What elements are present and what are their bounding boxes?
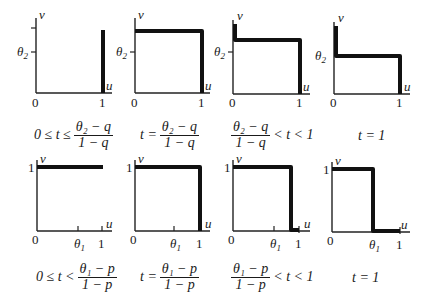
diagram-canvas: v u 0 1 θ2 v u 0 1 θ2 v u 0 1 θ2 v u 0 1	[0, 0, 429, 306]
plot-row1-3: v u 0 1 θ2	[214, 8, 310, 110]
caption-row2-1: 0 ≤ t < θ₁ − p 1 − p	[36, 262, 120, 292]
origin-label: 0	[130, 232, 137, 247]
theta1-label: θ1	[74, 236, 85, 253]
caption-prefix: t = 1	[358, 128, 385, 144]
fraction-numerator: θ₂ − q	[74, 120, 113, 136]
fraction-denominator: 1 − p	[80, 278, 114, 293]
v-label: v	[338, 10, 344, 25]
plot-row1-4: v u 0 1 θ2	[315, 10, 411, 110]
u-label: u	[106, 78, 113, 93]
u-label: u	[205, 216, 212, 231]
caption-row2-3: θ₁ − p 1 − p < t < 1	[228, 262, 314, 292]
caption-prefix: t =	[140, 127, 157, 143]
u-label: u	[303, 79, 310, 94]
fraction: θ₂ − q 1 − q	[160, 120, 199, 150]
origin-label: 0	[131, 95, 138, 110]
origin-label: 0	[32, 95, 39, 110]
fraction: θ₁ − p 1 − p	[160, 262, 199, 292]
one-level-label: 1	[126, 160, 133, 175]
fraction: θ₂ − q 1 − q	[231, 120, 270, 150]
fraction-denominator: 1 − q	[76, 136, 110, 151]
caption-prefix: 0 ≤ t ≤	[34, 127, 71, 143]
one-label: 1	[99, 95, 106, 110]
one-label: 1	[198, 95, 205, 110]
caption-prefix: t =	[140, 269, 157, 285]
v-label: v	[138, 151, 144, 166]
one-level-label: 1	[323, 162, 330, 177]
v-label: v	[237, 8, 243, 23]
one-label: 1	[396, 95, 403, 110]
v-label: v	[138, 7, 144, 22]
theta1-label: θ1	[369, 237, 380, 254]
u-label: u	[106, 216, 113, 231]
plot-row2-4: v u 1 0 θ1 1	[323, 153, 410, 254]
origin-label: 0	[229, 95, 236, 110]
fraction-denominator: 1 − p	[233, 278, 267, 293]
one-label: 1	[396, 237, 403, 252]
origin-label: 0	[32, 232, 39, 247]
path-segment	[233, 167, 299, 230]
path-segment	[332, 169, 400, 231]
one-level-label: 1	[224, 160, 231, 175]
v-label: v	[236, 151, 242, 166]
caption-row2-4: t = 1	[352, 270, 379, 286]
fraction-numerator: θ₁ − p	[160, 262, 199, 278]
one-label: 1	[196, 236, 203, 251]
path-segment	[336, 26, 400, 94]
fraction: θ₁ − p 1 − p	[78, 262, 117, 292]
theta2-label: θ2	[214, 44, 225, 61]
caption-suffix: < t < 1	[273, 269, 313, 285]
plot-row2-2: v u 1 0 θ1 1	[126, 151, 212, 253]
one-label: 1	[295, 236, 302, 251]
caption-row1-1: 0 ≤ t ≤ θ₂ − q 1 − q	[34, 120, 116, 150]
fraction-numerator: θ₂ − q	[231, 120, 270, 136]
caption-row1-2: t = θ₂ − q 1 − q	[140, 120, 202, 150]
one-label: 1	[296, 95, 303, 110]
caption-row1-4: t = 1	[358, 128, 385, 144]
theta2-label: θ2	[116, 44, 127, 61]
one-level-label: 1	[28, 160, 35, 175]
caption-suffix: < t < 1	[273, 127, 313, 143]
fraction-numerator: θ₁ − p	[231, 262, 270, 278]
v-label: v	[40, 151, 46, 166]
theta2-label: θ2	[17, 44, 28, 61]
path-segment	[135, 31, 202, 93]
origin-label: 0	[228, 232, 235, 247]
plot-row2-1: v u 1 0 θ1 1	[28, 151, 113, 253]
plot-row2-3: v u 1 0 θ1 1	[224, 151, 311, 253]
u-label: u	[304, 216, 311, 231]
origin-label: 0	[327, 233, 334, 248]
v-label: v	[335, 153, 341, 168]
plot-row1-2: v u 0 1 θ2	[116, 7, 212, 110]
path-segment	[235, 24, 300, 94]
fraction-denominator: 1 − q	[233, 136, 267, 151]
fraction-denominator: 1 − q	[162, 136, 196, 151]
caption-prefix: t = 1	[352, 270, 379, 286]
fraction-numerator: θ₁ − p	[78, 262, 117, 278]
plot-row1-1: v u 0 1 θ2	[17, 7, 113, 110]
theta1-label: θ1	[270, 236, 281, 253]
caption-row1-3: θ₂ − q 1 − q < t < 1	[228, 120, 314, 150]
caption-prefix: 0 ≤ t <	[36, 269, 75, 285]
fraction-numerator: θ₂ − q	[160, 120, 199, 136]
origin-label: 0	[330, 95, 337, 110]
caption-row2-2: t = θ₁ − p 1 − p	[140, 262, 202, 292]
fraction-denominator: 1 − p	[162, 278, 196, 293]
one-label: 1	[98, 236, 105, 251]
u-label: u	[205, 78, 212, 93]
v-label: v	[39, 7, 45, 22]
theta2-label: θ2	[315, 48, 326, 65]
fraction: θ₁ − p 1 − p	[231, 262, 270, 292]
u-label: u	[404, 79, 411, 94]
fraction: θ₂ − q 1 − q	[74, 120, 113, 150]
path-segment	[135, 167, 200, 231]
u-label: u	[401, 217, 408, 232]
theta1-label: θ1	[170, 236, 181, 253]
